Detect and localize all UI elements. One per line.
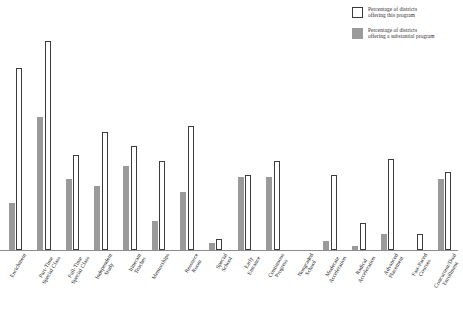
bar-offering [388,159,394,250]
open-square-icon [352,7,363,18]
bars-container [0,28,458,250]
bar-offering [73,155,79,250]
bar-offering [188,126,194,250]
bar-offering [245,175,251,250]
x-axis-label-text: Continuous Progress [267,252,292,282]
x-axis-label: Continuous Progress [267,252,292,282]
x-axis-label: Nongraded School [296,252,320,281]
x-axis-label-text: Nongraded School [296,252,320,281]
x-axis-label-text: Independent Study [94,252,119,283]
bar-substantial [438,179,444,250]
legend-item-offering-label: Percentage of districts offering this pr… [368,6,417,19]
x-axis-label: Fast-Paced Courses [410,252,434,281]
bar-offering [417,234,423,250]
x-axis-label-text: Itinerant Teacher [127,252,148,276]
bar-chart: Percentage of districts offering this pr… [0,0,463,319]
x-axis-label: Part-Time Special Class [35,252,62,286]
x-axis-label-text: Fast-Paced Courses [410,252,434,281]
x-axis-label-text: Full-Time Special Class [64,252,91,286]
bar-offering [159,161,165,250]
bar-offering [16,68,22,250]
x-axis-label-text: Resource Room [183,252,205,277]
bar-offering [131,146,137,250]
bar-substantial [9,203,15,250]
x-axis-label-text: Moderate Acceleration [322,252,348,284]
x-axis-label-text: Concurrent/Dual Enrollment [432,252,463,292]
x-axis-labels: EnrichmentPart-Time Special ClassFull-Ti… [0,252,463,319]
x-axis-label: Full-Time Special Class [64,252,91,286]
bar-offering [45,41,51,250]
bar-substantial [238,177,244,250]
bar-substantial [66,179,72,250]
x-axis-label-text: Enrichment [9,252,28,279]
x-axis-label: Radical Acceleration [351,252,377,284]
x-axis-line [0,250,458,251]
x-axis-label-text: Mentorships [151,252,171,280]
x-axis-label-text: Early Entrance [241,252,262,276]
legend-item-offering: Percentage of districts offering this pr… [352,6,463,19]
bar-offering [274,161,280,250]
x-axis-label-text: Radical Acceleration [351,252,377,284]
x-axis-label: Independent Study [94,252,119,283]
x-axis-label-text: Advanced Placement [382,252,405,279]
bar-offering [331,175,337,250]
x-axis-label: Resource Room [183,252,205,277]
bar-offering [445,172,451,250]
bar-substantial [323,241,329,250]
x-axis-label: Special School [214,252,234,273]
bar-substantial [123,166,129,250]
bar-substantial [266,177,272,250]
x-axis-label-text: Special School [214,252,234,273]
bar-substantial [37,117,43,250]
bar-substantial [381,234,387,250]
bar-substantial [180,192,186,250]
bar-substantial [209,243,215,250]
x-axis-label: Itinerant Teacher [127,252,148,276]
x-axis-label: Enrichment [9,252,28,279]
x-axis-label: Advanced Placement [382,252,405,279]
x-axis-label-text: Part-Time Special Class [35,252,62,286]
bar-offering [216,239,222,250]
plot-area [0,28,463,251]
bar-substantial [94,186,100,250]
bar-substantial [152,221,158,250]
bar-offering [102,132,108,250]
x-axis-label: Early Entrance [241,252,262,276]
x-axis-label: Concurrent/Dual Enrollment [432,252,463,292]
x-axis-label: Mentorships [151,252,171,280]
bar-offering [360,223,366,250]
x-axis-label: Moderate Acceleration [322,252,348,284]
